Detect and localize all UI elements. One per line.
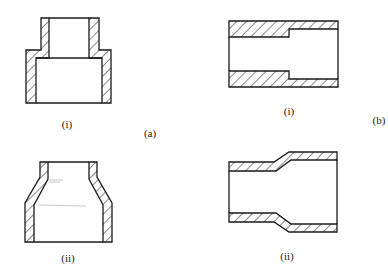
shading-mark bbox=[38, 205, 86, 206]
drawing-a-i-stepped-reducer bbox=[26, 18, 111, 103]
right-wall-section bbox=[89, 18, 111, 103]
label-b-i: (i) bbox=[284, 105, 294, 117]
top-wall-section bbox=[229, 152, 337, 171]
bottom-wall-section bbox=[229, 71, 338, 87]
label-group-a: (a) bbox=[144, 127, 156, 139]
left-wall-section bbox=[25, 162, 48, 242]
label-group-b: (b) bbox=[373, 114, 386, 126]
bottom-wall-section bbox=[229, 213, 337, 232]
drawing-b-i-stepped-bore-reducer bbox=[229, 21, 338, 87]
drawing-a-ii-conical-reducer bbox=[25, 162, 112, 242]
right-wall-section bbox=[89, 162, 112, 242]
label-a-ii: (ii) bbox=[61, 252, 74, 264]
drawing-b-ii-swaged-reducer bbox=[229, 152, 337, 232]
reducer-fittings-figure: (i) (a) (ii) (i) (b) (ii) bbox=[0, 0, 388, 273]
left-wall-section bbox=[26, 18, 49, 103]
label-b-ii: (ii) bbox=[280, 250, 293, 262]
top-wall-section bbox=[229, 21, 338, 37]
label-a-i: (i) bbox=[62, 118, 72, 130]
